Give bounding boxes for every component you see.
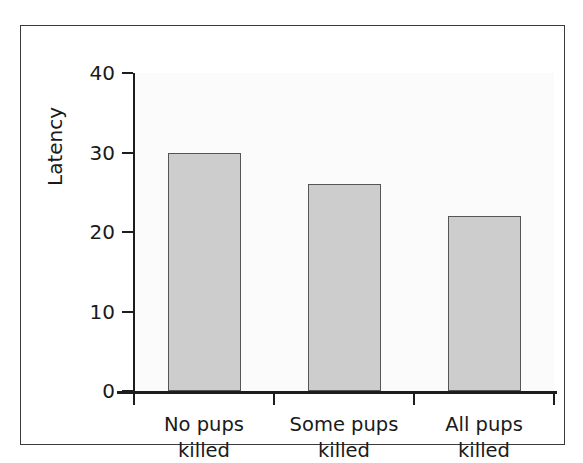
y-axis-tick-mark	[122, 311, 133, 313]
x-axis-category-label-line: Some pups	[274, 412, 414, 438]
x-axis-category-label-line: killed	[134, 438, 274, 463]
x-axis-category-label-line: killed	[414, 438, 554, 463]
y-axis-tick-label: 30	[71, 143, 115, 163]
plot-area	[134, 73, 554, 391]
y-axis-tick-label: 10	[71, 302, 115, 322]
x-axis-tick-mark	[133, 392, 135, 405]
y-axis-tick-mark	[122, 152, 133, 154]
x-axis-category-label: No pupskilled	[134, 412, 274, 463]
x-axis-category-label: All pupskilled	[414, 412, 554, 463]
bar-some-pups-killed	[308, 184, 381, 391]
x-axis-category-label-line: All pups	[414, 412, 554, 438]
x-axis-category-label-line: No pups	[134, 412, 274, 438]
x-axis-tick-mark	[413, 392, 415, 405]
y-axis-title: Latency	[43, 107, 67, 186]
bar-no-pups-killed	[168, 153, 241, 392]
y-axis-tick-label: 40	[71, 63, 115, 83]
y-axis-tick-mark	[122, 231, 133, 233]
figure-frame: 010203040 Latency No pupskilledSome pups…	[20, 25, 565, 445]
y-axis-line	[133, 73, 135, 392]
y-axis-tick-mark	[122, 72, 133, 74]
x-axis-line	[117, 391, 557, 394]
y-axis-tick-label: 20	[71, 222, 115, 242]
y-axis-tick-mark	[122, 390, 133, 392]
y-axis-tick-label: 0	[71, 381, 115, 401]
x-axis-tick-mark	[553, 392, 555, 405]
x-axis-category-label-line: killed	[274, 438, 414, 463]
x-axis-category-label: Some pupskilled	[274, 412, 414, 463]
bar-all-pups-killed	[448, 216, 521, 391]
x-axis-tick-mark	[273, 392, 275, 405]
